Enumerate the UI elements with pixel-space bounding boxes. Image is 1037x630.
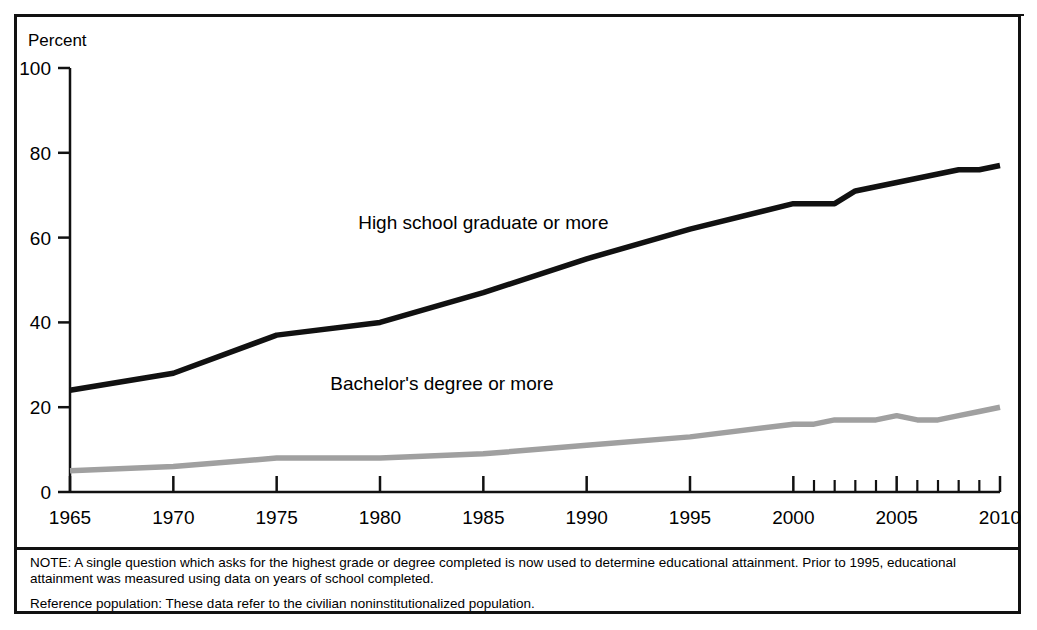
notes-divider (17, 547, 1018, 550)
chart-frame (14, 14, 1021, 614)
note-line-1: NOTE: A single question which asks for t… (30, 555, 1015, 587)
notes-block: NOTE: A single question which asks for t… (30, 555, 1015, 612)
note-line-2: Reference population: These data refer t… (30, 596, 1015, 612)
figure-panel: 020406080100Percent196519701975198019851… (0, 0, 1037, 630)
